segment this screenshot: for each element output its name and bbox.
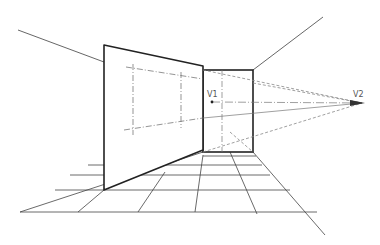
wall-construction-lines [203, 70, 362, 152]
v1-point [211, 101, 214, 104]
back-wall [203, 70, 253, 152]
vanishing-lines-v2 [203, 70, 362, 152]
v1-label: V1 [207, 90, 218, 99]
v2-point [350, 100, 365, 106]
floor-grid [20, 152, 325, 235]
perspective-diagram [0, 0, 380, 245]
slanted-panel [104, 45, 203, 190]
v2-label: V2 [353, 90, 364, 99]
